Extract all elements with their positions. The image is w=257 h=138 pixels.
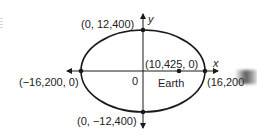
bottom-vertex-label: (0, −12,400) — [77, 116, 137, 127]
origin-label: 0 — [132, 76, 138, 87]
y-axis-label: y — [148, 14, 154, 25]
bottom-vertex-dot — [141, 110, 146, 115]
page-edge-shadow — [235, 70, 257, 84]
left-vertex-label: (−16,200, 0) — [19, 77, 79, 88]
top-vertex-label: (0, 12,400) — [81, 19, 134, 30]
top-vertex-dot — [141, 28, 146, 33]
focus-label: (10,425, 0) — [145, 59, 198, 70]
x-axis-label: x — [213, 58, 219, 69]
left-vertex-dot — [79, 69, 84, 74]
right-vertex-dot — [203, 69, 208, 74]
earth-label: Earth — [158, 78, 184, 89]
